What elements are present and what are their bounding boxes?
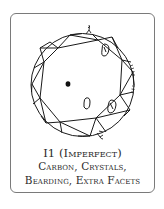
inclusions-label-line2: Bearding, Extra Facets	[10, 174, 155, 186]
inclusions-label-line1: Carbon, Crystals,	[10, 160, 155, 172]
table-facet	[40, 40, 122, 122]
crystal-inclusion-icon	[108, 100, 116, 113]
crystal-inclusion-icon	[84, 98, 90, 109]
girdle-outline	[31, 34, 134, 137]
extra-facet-icon	[97, 131, 103, 139]
clarity-grade-label: I1 (Imperfect)	[10, 146, 155, 160]
extra-facet-icon	[86, 25, 91, 34]
carbon-inclusion-icon	[66, 81, 71, 87]
